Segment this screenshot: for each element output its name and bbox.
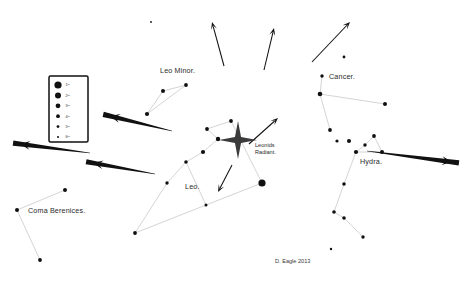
label-coma-berenices: Coma Berenices.	[28, 206, 85, 215]
star-hydra	[342, 182, 346, 186]
label-hydra: Hydra.	[360, 157, 382, 166]
label-leo-minor: Leo Minor.	[160, 66, 195, 75]
chart-background	[0, 0, 469, 286]
star-chart-svg: Leo Minor. Cancer. Hydra. Leo. Coma Bere…	[0, 0, 469, 286]
star-field-stars	[150, 21, 152, 23]
star-field-stars	[330, 248, 332, 250]
star-hydra	[354, 150, 358, 154]
star-leo-minor	[184, 83, 188, 87]
legend-dot-mag-6	[57, 136, 59, 138]
star-leo	[205, 204, 208, 207]
star-chart-canvas: Leo Minor. Cancer. Hydra. Leo. Coma Bere…	[0, 0, 469, 286]
legend-label-mag-5: 5ᵗʰ	[66, 125, 71, 129]
star-leo	[184, 160, 188, 164]
label-leonids-radiant-line1: Leonids	[255, 142, 275, 148]
star-field-stars	[335, 139, 338, 142]
label-cancer: Cancer.	[329, 72, 355, 81]
star-leo	[165, 181, 168, 184]
star-coma-berenices	[63, 188, 67, 192]
legend-label-mag-3: 3ʳᵈ	[66, 104, 71, 108]
star-cancer	[320, 74, 323, 77]
star-cancer	[383, 102, 387, 106]
star-leo-minor	[161, 89, 165, 93]
magnitude-legend: 1ᵗʰ2ᵗʰ3ʳᵈ4ᵗʰ5ᵗʰ6ᵗʰ	[49, 76, 88, 142]
star-field-stars	[343, 56, 346, 59]
label-leonids-radiant-line2: Radiant.	[255, 149, 276, 155]
star-leo	[201, 150, 205, 154]
credit-attribution: D. Eagle 2013	[275, 258, 310, 264]
star-hydra	[380, 150, 384, 154]
star-coma-berenices	[38, 258, 42, 262]
label-leo: Leo.	[185, 182, 200, 191]
legend-dot-mag-5	[57, 125, 60, 128]
legend-dot-mag-2	[55, 92, 61, 98]
star-leo-minor	[145, 112, 149, 116]
star-leo	[258, 179, 265, 186]
star-hydra	[361, 235, 364, 238]
star-hydra	[372, 134, 376, 138]
legend-label-mag-6: 6ᵗʰ	[66, 135, 71, 139]
legend-label-mag-4: 4ᵗʰ	[66, 115, 71, 119]
legend-label-mag-1: 1ᵗʰ	[66, 83, 71, 87]
star-leo	[216, 137, 220, 141]
star-hydra	[347, 139, 351, 143]
star-hydra	[332, 210, 336, 214]
star-hydra	[342, 216, 346, 220]
legend-dot-mag-1	[54, 81, 61, 88]
legend-dot-mag-3	[56, 103, 61, 108]
star-cancer	[328, 128, 332, 132]
star-leo	[205, 127, 209, 131]
legend-dot-mag-4	[56, 114, 60, 118]
legend-label-mag-2: 2ᵗʰ	[66, 94, 71, 98]
star-coma-berenices	[15, 208, 19, 212]
star-leo	[229, 119, 233, 123]
star-hydra	[363, 143, 366, 146]
star-leo	[133, 231, 137, 235]
star-cancer	[318, 92, 323, 97]
